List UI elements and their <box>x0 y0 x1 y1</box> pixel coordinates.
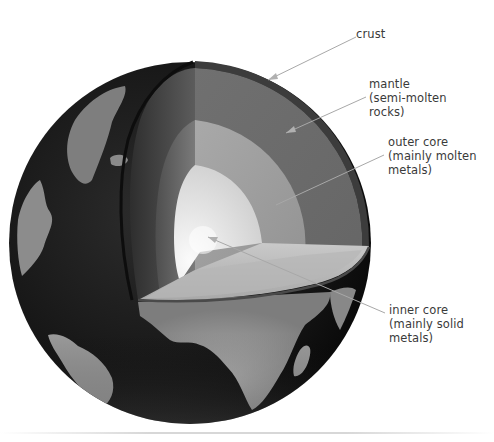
label-crust: crust <box>356 27 385 41</box>
ground-shadow-line <box>0 432 494 434</box>
crust-arrowhead-icon <box>268 73 278 80</box>
crust-leader-line <box>268 37 356 80</box>
earth-structure-diagram: crust mantle (semi-molten rocks) outer c… <box>0 0 494 442</box>
globe-shadow <box>9 62 371 424</box>
label-mantle: mantle (semi-molten rocks) <box>369 77 447 119</box>
label-inner-core: inner core (mainly solid metals) <box>389 303 464 345</box>
globe-cutaway-illustration <box>0 0 494 442</box>
label-outer-core: outer core (mainly molten metals) <box>388 135 477 177</box>
